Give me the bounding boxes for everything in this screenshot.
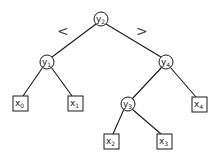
leaf-x4: x4 (192, 97, 207, 112)
leaf-x1: x1 (68, 96, 83, 111)
edge-y4-y3 (132, 67, 162, 99)
node-y4: y4 (159, 55, 173, 69)
edges (23, 24, 196, 134)
edge-y4-x4 (170, 67, 196, 97)
leaf-x3: x3 (157, 134, 172, 149)
tree-canvas: < > y2 y1 y4 y3 x0 x1 x4 (0, 0, 218, 163)
greater-than-marker: > (136, 23, 148, 39)
less-than-marker: < (57, 23, 69, 39)
edge-y3-x3 (132, 109, 161, 134)
edge-y1-x1 (51, 67, 72, 96)
bst-diagram: < > y2 y1 y4 y3 x0 x1 x4 (0, 0, 218, 163)
node-y3: y3 (121, 97, 135, 111)
leaf-x0: x0 (13, 96, 28, 111)
node-y1: y1 (40, 55, 54, 69)
edge-y3-x2 (113, 109, 124, 134)
node-y2: y2 (94, 12, 108, 26)
edge-y1-x0 (23, 67, 43, 96)
leaf-x2: x2 (104, 134, 119, 149)
edge-y2-y4 (106, 24, 161, 57)
